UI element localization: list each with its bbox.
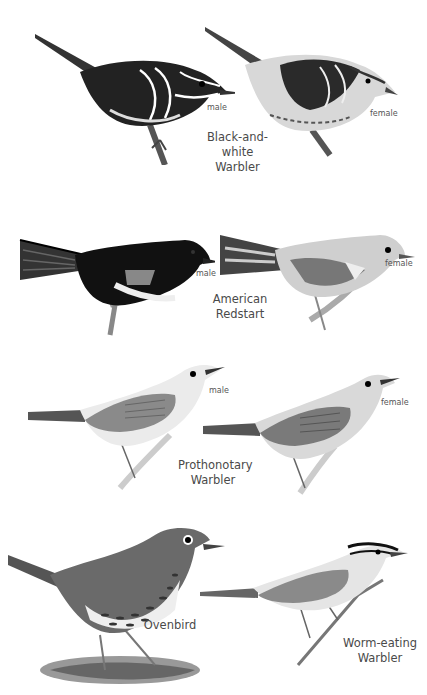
bird-illustration-plate: male female Black-and-white Warbler: [0, 0, 427, 695]
species-name-american-redstart: American Redstart: [205, 292, 275, 322]
species-name-black-and-white-warbler: Black-and-white Warbler: [195, 130, 280, 175]
species-name-prothonotary-warbler: Prothonotary Warbler: [178, 458, 248, 488]
species-name-worm-eating-warbler: Worm-eating Warbler: [340, 636, 420, 666]
sex-label-female: female: [385, 259, 413, 268]
sex-label-female: female: [370, 109, 398, 118]
species-name-ovenbird: Ovenbird: [140, 618, 200, 633]
american-redstart-male-illustration: [15, 210, 215, 340]
sex-label-female: female: [381, 398, 409, 407]
ovenbird-illustration: [5, 520, 225, 695]
sex-label-male: male: [196, 269, 216, 278]
